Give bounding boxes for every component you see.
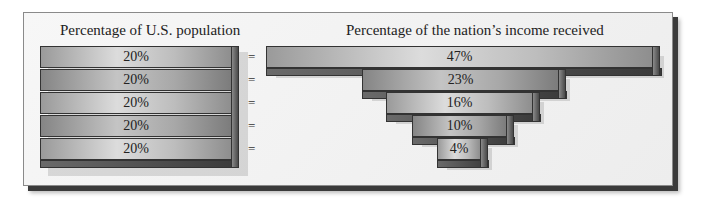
income-bar-1-side [652, 46, 660, 76]
population-bar-3: 20% [40, 92, 232, 114]
income-bar-3: 16% [386, 92, 533, 114]
income-bar-2: 23% [362, 69, 559, 91]
income-bar-3-side [532, 92, 540, 122]
left-bars-base [40, 160, 239, 168]
income-bar-1: 47% [266, 46, 653, 68]
left-panel-title: Percentage of U.S. population [60, 22, 240, 39]
population-bar-5: 20% [40, 138, 232, 160]
income-bar-4-side [506, 115, 514, 145]
income-bar-5-side [480, 138, 488, 168]
income-bar-2-side [558, 69, 566, 99]
population-bar-2: 20% [40, 69, 232, 91]
left-bars-side [231, 46, 239, 168]
right-panel-title: Percentage of the nation’s income receiv… [346, 22, 604, 39]
equals-sign-1: = [248, 49, 255, 65]
equals-sign-5: = [248, 141, 255, 157]
equals-sign-3: = [248, 95, 255, 111]
population-bar-1: 20% [40, 46, 232, 68]
equals-sign-2: = [248, 72, 255, 88]
population-bar-4: 20% [40, 115, 232, 137]
income-bar-5: 4% [437, 138, 481, 160]
equals-sign-4: = [248, 118, 255, 134]
income-bar-4: 10% [412, 115, 507, 137]
